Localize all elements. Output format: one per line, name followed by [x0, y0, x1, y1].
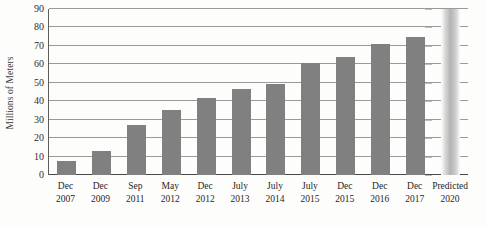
x-tick-label-line1: Dec	[58, 181, 73, 191]
bar-slot	[433, 9, 468, 175]
x-tick-label-line1: Sep	[128, 181, 142, 191]
plot-area	[48, 9, 468, 175]
x-tick-label-line2: 2013	[223, 193, 258, 206]
right-axis-tick	[425, 83, 432, 84]
x-tick-label-line1: Dec	[337, 181, 352, 191]
bar-slot	[84, 9, 119, 175]
y-tick-label: 20	[18, 133, 44, 143]
bar	[197, 98, 216, 175]
right-axis-tick	[425, 120, 432, 121]
x-tick-label-line2: 2017	[397, 193, 432, 206]
x-tick-label-line2: 2012	[188, 193, 223, 206]
y-tick-label: 90	[18, 4, 44, 14]
x-tick-label: July2015	[292, 180, 327, 214]
x-tick-label: May2012	[153, 180, 188, 214]
x-tick-label: Predicted2020	[432, 180, 468, 214]
right-axis-tick	[425, 157, 432, 158]
x-tick-label-line2: 2015	[292, 193, 327, 206]
bar	[266, 84, 285, 175]
y-tick-label: 60	[18, 59, 44, 69]
bar-slot	[293, 9, 328, 175]
y-tick-label: 40	[18, 96, 44, 106]
bars-layer	[49, 9, 468, 175]
bar	[92, 151, 111, 175]
bar-slot	[224, 9, 259, 175]
x-tick-label-line2: 2015	[327, 193, 362, 206]
y-tick-label: 80	[18, 22, 44, 32]
x-tick-label-line2: 2011	[118, 193, 153, 206]
x-tick-label: Sep2011	[118, 180, 153, 214]
right-axis-tick	[425, 101, 432, 102]
x-tick-label-line1: May	[162, 181, 179, 191]
bar	[336, 57, 355, 175]
x-tick-label-line1: July	[267, 181, 283, 191]
bar	[127, 125, 146, 175]
right-axis-tick	[425, 27, 432, 28]
x-tick-label-line1: Dec	[407, 181, 422, 191]
right-axis-tick	[425, 46, 432, 47]
x-tick-label-line2: 2016	[362, 193, 397, 206]
right-axis-tick	[425, 138, 432, 139]
x-tick-label-line1: July	[232, 181, 248, 191]
bar	[371, 44, 390, 175]
bar-slot	[189, 9, 224, 175]
bar-slot	[363, 9, 398, 175]
x-tick-label-line2: 2020	[432, 193, 468, 206]
y-tick-label: 70	[18, 41, 44, 51]
x-tick-label-line1: Predicted	[432, 181, 468, 191]
x-tick-label-line1: Dec	[198, 181, 213, 191]
x-tick-label: Dec2012	[188, 180, 223, 214]
x-tick-label-line2: 2012	[153, 193, 188, 206]
bar-slot	[119, 9, 154, 175]
x-tick-label: July2014	[258, 180, 293, 214]
x-tick-label: Dec2007	[48, 180, 83, 214]
right-axis-tick	[425, 175, 432, 176]
y-axis-title: Millions of Meters	[0, 0, 20, 185]
y-tick-label: 30	[18, 115, 44, 125]
x-axis-tick-labels: Dec2007Dec2009Sep2011May2012Dec2012July2…	[48, 180, 468, 214]
bar	[162, 110, 181, 175]
bar-slot	[259, 9, 294, 175]
x-tick-label: Dec2015	[327, 180, 362, 214]
x-tick-label-line1: July	[302, 181, 318, 191]
x-tick-label: Dec2016	[362, 180, 397, 214]
y-axis-tick-labels: 9080706050403020100	[18, 9, 44, 175]
bar-slot	[328, 9, 363, 175]
x-tick-label-line1: Dec	[372, 181, 387, 191]
x-tick-label-line2: 2009	[83, 193, 118, 206]
right-axis-tick	[425, 64, 432, 65]
bar-slot	[154, 9, 189, 175]
x-tick-label: July2013	[223, 180, 258, 214]
right-axis-ticks	[421, 9, 433, 175]
y-tick-label: 0	[18, 170, 44, 180]
bar-slot	[49, 9, 84, 175]
x-tick-label: Dec2009	[83, 180, 118, 214]
bar-chart-figure: Millions of Meters 9080706050403020100 D…	[0, 0, 486, 227]
right-axis-tick	[425, 9, 432, 10]
x-tick-label: Dec2017	[397, 180, 432, 214]
bar-predicted	[441, 9, 460, 175]
bar	[301, 63, 320, 176]
x-tick-label-line2: 2014	[258, 193, 293, 206]
bar	[232, 89, 251, 175]
x-tick-label-line2: 2007	[48, 193, 83, 206]
y-axis-title-text: Millions of Meters	[5, 56, 15, 129]
y-tick-label: 10	[18, 152, 44, 162]
bar	[57, 161, 76, 175]
y-tick-label: 50	[18, 78, 44, 88]
x-tick-label-line1: Dec	[93, 181, 108, 191]
